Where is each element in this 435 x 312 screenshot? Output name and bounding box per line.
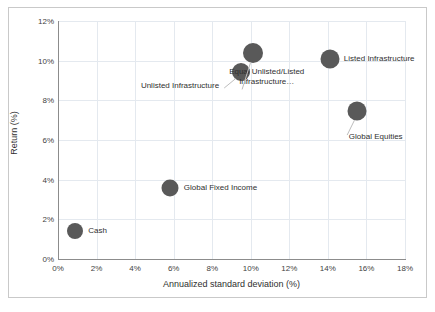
y-tick-label: 10% [24, 56, 54, 65]
gridline-horizontal [58, 219, 405, 220]
gridline-vertical [135, 21, 136, 259]
y-tick-label: 4% [24, 175, 54, 184]
y-tick-label: 0% [24, 255, 54, 264]
y-tick-label: 12% [24, 17, 54, 26]
x-tick-label: 2% [77, 264, 117, 273]
x-axis-title: Annualized standard deviation (%) [58, 279, 405, 289]
gridline-vertical [289, 21, 290, 259]
x-tick-label: 10% [231, 264, 271, 273]
y-axis-ticks: 0%2%4%6%8%10%12% [20, 21, 54, 259]
x-axis-line [58, 259, 406, 260]
scatter-point-marker[interactable] [320, 49, 339, 68]
plot-area: CashGlobal Fixed IncomeUnlisted Infrastr… [58, 21, 405, 259]
gridline-horizontal [58, 100, 405, 101]
gridline-vertical [97, 21, 98, 259]
y-tick-label: 8% [24, 96, 54, 105]
scatter-point-marker[interactable] [243, 43, 263, 63]
chart-figure: CashGlobal Fixed IncomeUnlisted Infrastr… [0, 0, 435, 312]
scatter-point-label: Cash [88, 226, 107, 236]
x-tick-label: 8% [192, 264, 232, 273]
x-tick-label: 16% [346, 264, 386, 273]
y-tick-label: 2% [24, 215, 54, 224]
scatter-point-marker[interactable] [347, 102, 366, 121]
x-tick-label: 14% [308, 264, 348, 273]
gridline-vertical [174, 21, 175, 259]
gridline-vertical [212, 21, 213, 259]
scatter-point-marker[interactable] [161, 179, 178, 196]
x-tick-label: 4% [115, 264, 155, 273]
y-tick-label: 6% [24, 136, 54, 145]
y-axis-line [58, 21, 59, 260]
scatter-point-label: Unlisted Infrastructure [141, 81, 219, 91]
y-axis-title: Return (%) [9, 93, 19, 173]
x-tick-label: 18% [385, 264, 425, 273]
scatter-point-marker[interactable] [67, 223, 83, 239]
gridline-horizontal [58, 180, 405, 181]
scatter-point-label: Equal Unlisted/Listed Infrastructure… [229, 67, 305, 87]
scatter-point-label: Global Fixed Income [184, 183, 257, 193]
scatter-point-label: Global Equities [349, 132, 403, 142]
scatter-point-label: Listed Infrastructure [344, 54, 415, 64]
x-tick-label: 0% [38, 264, 78, 273]
x-axis-ticks: 0%2%4%6%8%10%12%14%16%18% [58, 264, 405, 276]
x-tick-label: 12% [269, 264, 309, 273]
gridline-horizontal [58, 21, 405, 22]
x-tick-label: 6% [154, 264, 194, 273]
